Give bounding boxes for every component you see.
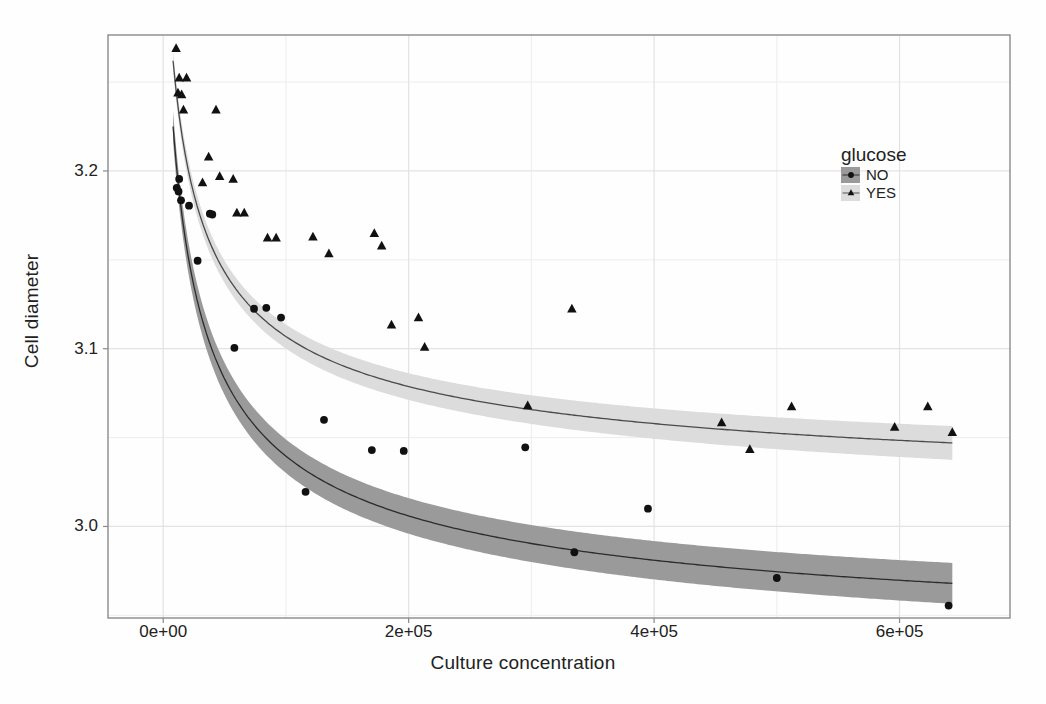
fit-lines (173, 61, 952, 584)
legend-item-yes[interactable]: YES (841, 184, 907, 201)
y-tick-label: 3.0 (74, 516, 98, 536)
x-tick-label: 4e+05 (630, 622, 678, 642)
y-axis-title: Cell diameter (21, 201, 43, 421)
y-tick-label: 3.1 (74, 339, 98, 359)
legend-swatch-yes (841, 185, 860, 201)
legend-label: YES (866, 185, 896, 201)
x-axis-title: Culture concentration (0, 652, 1046, 674)
y-tick-label: 3.2 (74, 161, 98, 181)
triangle-marker-icon (841, 185, 860, 201)
legend-item-no[interactable]: NO (841, 166, 907, 183)
chart-figure: Culture concentration Cell diameter 0e+0… (0, 0, 1046, 704)
legend-entries: NOYES (841, 166, 907, 201)
data-points (171, 43, 957, 609)
circle-marker-icon (841, 167, 860, 183)
confidence-bands (173, 51, 952, 604)
x-tick-label: 2e+05 (385, 622, 433, 642)
x-tick-label: 6e+05 (876, 622, 924, 642)
legend-swatch-no (841, 167, 860, 183)
legend: glucose NOYES (841, 145, 907, 202)
x-tick-label: 0e+00 (139, 622, 187, 642)
legend-label: NO (866, 167, 889, 183)
legend-title: glucose (841, 145, 907, 165)
plot-canvas (0, 0, 1046, 704)
